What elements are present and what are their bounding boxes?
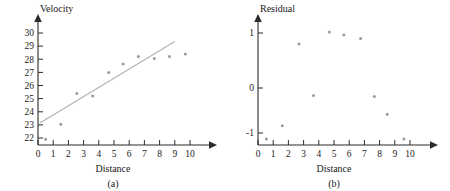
y-tick-label-b-pos1: 1	[249, 28, 254, 38]
regression-line-a	[40, 42, 175, 123]
y-tick-label-a-23: 23	[25, 120, 35, 130]
y-tick-label-a-26: 26	[25, 81, 35, 91]
x-tick-label-b-2: 2	[286, 149, 291, 159]
data-point	[184, 53, 187, 56]
x-tick-label-a-4: 4	[96, 149, 101, 159]
data-point	[122, 62, 125, 65]
data-point	[281, 124, 284, 127]
chart-panel-a: 0 1 2 3 4 5 6 7 8 9 10	[0, 0, 225, 191]
y-tick-label-b-neg1: -1	[246, 128, 254, 138]
data-point	[44, 138, 47, 141]
data-point	[373, 95, 376, 98]
x-tick-label-b-7: 7	[362, 149, 367, 159]
x-tick-label-a-7: 7	[142, 149, 147, 159]
y-axis-arrow-b	[254, 14, 262, 22]
x-tick-label-a-9: 9	[172, 149, 177, 159]
x-tick-label-b-10: 10	[405, 149, 415, 159]
panel-caption-a: (a)	[107, 178, 118, 190]
panel-b-x-ticks	[258, 140, 410, 145]
chart-panel-b: 0 1 2 3 4 5 6 7 8 9 10 1 0 -1	[225, 0, 450, 191]
figure-container: 0 1 2 3 4 5 6 7 8 9 10	[0, 0, 450, 191]
x-tick-label-a-5: 5	[112, 149, 117, 159]
scatter-plot-b: 0 1 2 3 4 5 6 7 8 9 10 1 0 -1	[225, 0, 450, 191]
panel-b-axes	[254, 14, 438, 149]
data-point	[402, 138, 405, 141]
x-tick-label-b-6: 6	[347, 149, 352, 159]
x-axis-title-a: Distance	[96, 163, 132, 174]
panel-a-x-tick-labels: 0 1 2 3 4 5 6 7 8 9 10	[36, 149, 195, 159]
y-axis-title-a: Velocity	[40, 3, 73, 14]
y-tick-label-b-zero: 0	[249, 83, 254, 93]
y-tick-label-a-30: 30	[25, 28, 35, 38]
y-axis-arrow-a	[34, 14, 42, 22]
panel-a-y-tick-labels: 22 23 24 25 26 27 28 29 30	[25, 28, 35, 143]
x-tick-label-b-5: 5	[332, 149, 337, 159]
x-tick-label-a-1: 1	[51, 149, 56, 159]
x-tick-label-b-9: 9	[392, 149, 397, 159]
x-tick-label-a-0: 0	[36, 149, 41, 159]
data-point	[328, 31, 331, 34]
data-point	[168, 55, 171, 58]
data-point	[312, 94, 315, 97]
panel-b-y-tick-labels: 1 0 -1	[246, 28, 254, 138]
x-axis-arrow-a	[209, 141, 217, 149]
x-tick-label-b-4: 4	[316, 149, 321, 159]
x-tick-label-a-10: 10	[185, 149, 195, 159]
data-point	[298, 43, 301, 46]
x-tick-label-b-3: 3	[301, 149, 306, 159]
x-tick-label-a-6: 6	[127, 149, 132, 159]
y-tick-label-a-29: 29	[25, 41, 35, 51]
panel-b-y-ticks	[258, 33, 263, 133]
panel-a-axes	[34, 14, 217, 149]
panel-b-x-tick-labels: 0 1 2 3 4 5 6 7 8 9 10	[256, 149, 415, 159]
x-tick-label-b-1: 1	[271, 149, 276, 159]
panel-a-datapoints	[44, 53, 187, 141]
data-point	[59, 123, 62, 126]
y-tick-label-a-25: 25	[25, 94, 35, 104]
x-tick-label-b-0: 0	[256, 149, 261, 159]
scatter-plot-a: 0 1 2 3 4 5 6 7 8 9 10	[0, 0, 225, 191]
data-point	[107, 71, 110, 74]
data-point	[265, 138, 268, 141]
x-tick-label-a-2: 2	[66, 149, 71, 159]
data-point	[91, 95, 94, 98]
x-axis-title-b: Distance	[317, 163, 353, 174]
panel-a-x-ticks	[38, 140, 190, 145]
panel-caption-b: (b)	[328, 178, 340, 190]
y-tick-label-a-24: 24	[25, 107, 35, 117]
data-point	[342, 34, 345, 37]
data-point	[359, 37, 362, 40]
y-tick-label-a-27: 27	[25, 68, 35, 78]
data-point	[153, 57, 156, 60]
data-point	[137, 55, 140, 58]
x-tick-label-b-8: 8	[377, 149, 382, 159]
data-point	[75, 92, 78, 95]
x-tick-label-a-3: 3	[81, 149, 86, 159]
y-tick-label-a-22: 22	[25, 133, 35, 143]
x-axis-arrow-b	[430, 141, 438, 149]
panel-b-datapoints	[265, 31, 406, 141]
data-point	[386, 113, 389, 116]
x-tick-label-a-8: 8	[157, 149, 162, 159]
y-tick-label-a-28: 28	[25, 55, 35, 65]
y-axis-title-b: Residual	[260, 3, 295, 14]
